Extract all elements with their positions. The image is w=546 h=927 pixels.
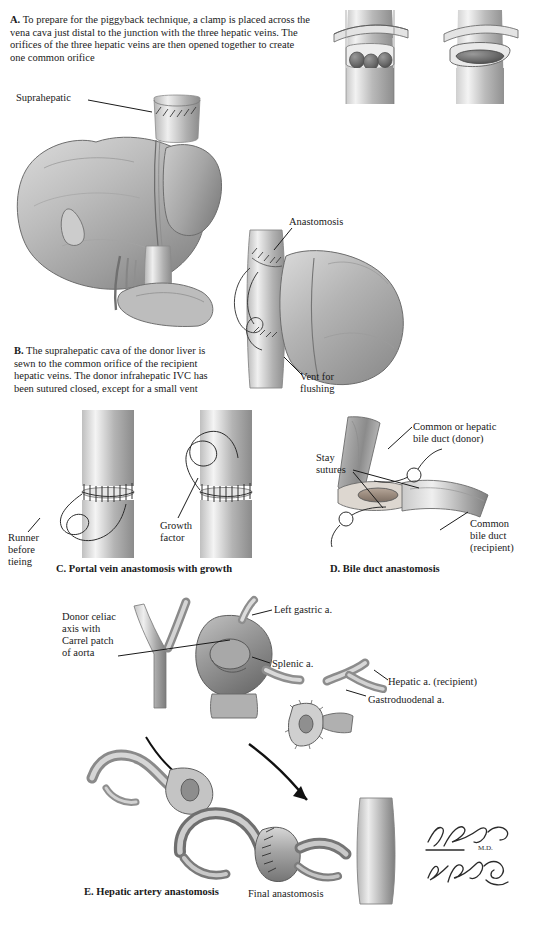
panel-b-illustration — [228, 228, 428, 393]
label-suprahepatic: Suprahepatic — [16, 92, 71, 104]
label-gastroduodenal: Gastroduodenal a. — [368, 694, 444, 706]
label-left-gastric: Left gastric a. — [274, 604, 332, 616]
panel-b-caption-text: The suprahepatic cava of the donor liver… — [14, 345, 208, 394]
label-splenic: Splenic a. — [272, 658, 313, 670]
panel-d-title: D. Bile duct anastomosis — [330, 563, 440, 575]
leader-vent — [284, 357, 308, 379]
label-donor-bile-duct: Common or hepatic bile duct (donor) — [413, 421, 496, 445]
label-recipient-duct-line2: bile duct — [470, 530, 514, 542]
label-runner-line3: tieing — [8, 556, 39, 568]
label-growth-factor: Growth factor — [160, 520, 192, 544]
panel-e-title: E. Hepatic artery anastomosis — [84, 886, 219, 898]
leader-stay-sutures — [353, 468, 423, 512]
label-stay-sutures: Stay sutures — [316, 452, 346, 476]
label-anastomosis: Anastomosis — [289, 216, 343, 228]
leader-growth — [176, 478, 202, 522]
label-recipient-duct-line1: Common — [470, 518, 514, 530]
label-celiac-line1: Donor celiac — [62, 611, 116, 623]
figure-page: A. To prepare for the piggyback techniqu… — [0, 0, 546, 927]
label-growth-line2: factor — [160, 532, 192, 544]
cava-clamp-svg — [330, 8, 540, 108]
panel-c-title: C. Portal vein anastomosis with growth — [56, 563, 232, 575]
label-runner-before-tieing: Runner before tieing — [8, 532, 39, 568]
leader-left-gastric — [250, 607, 276, 619]
leader-hepatic-recipient — [372, 668, 392, 684]
leader-celiac — [118, 638, 234, 660]
panel-b-id: B. — [14, 345, 24, 356]
panel-b-caption: B. The suprahepatic cava of the donor li… — [14, 345, 209, 395]
label-celiac-line4: of aorta — [62, 647, 116, 659]
leader-suprahepatic — [88, 96, 158, 118]
label-recipient-bile-duct: Common bile duct (recipient) — [470, 518, 514, 554]
label-recipient-duct-line3: (recipient) — [470, 542, 514, 554]
label-donor-duct-line2: bile duct (donor) — [413, 433, 496, 445]
label-celiac-line2: axis with — [62, 623, 116, 635]
label-hepatic-recipient: Hepatic a. (recipient) — [388, 676, 477, 688]
label-stay-line1: Stay — [316, 452, 346, 464]
cava-three-orifices — [334, 10, 408, 104]
leader-recipient-duct — [440, 508, 472, 534]
label-stay-line2: sutures — [316, 464, 346, 476]
leader-runner — [26, 518, 48, 536]
label-donor-duct-line1: Common or hepatic — [413, 421, 496, 433]
label-celiac-line3: Carrel patch — [62, 635, 116, 647]
label-donor-celiac-axis: Donor celiac axis with Carrel patch of a… — [62, 611, 116, 659]
label-runner-line2: before — [8, 544, 39, 556]
panel-a-caption: A. To prepare for the piggyback techniqu… — [10, 14, 310, 64]
label-vent-line2: flushing — [300, 383, 334, 395]
label-final-anastomosis: Final anastomosis — [248, 888, 324, 900]
artist-signature: M.D. — [424, 820, 524, 894]
leader-donor-duct — [386, 427, 416, 453]
donor-liver-anastomosis-svg — [228, 228, 428, 393]
panel-a-cava-illustrations — [330, 8, 540, 108]
leader-anastomosis — [272, 228, 298, 254]
portal-vein-left — [60, 410, 134, 558]
signature-credential: M.D. — [478, 844, 493, 852]
leader-splenic — [250, 655, 274, 671]
signature-svg: M.D. — [424, 820, 524, 894]
cava-common-orifice — [444, 10, 518, 104]
panel-a-id: A. — [10, 14, 20, 25]
panel-a-caption-text: To prepare for the piggyback technique, … — [10, 14, 310, 63]
